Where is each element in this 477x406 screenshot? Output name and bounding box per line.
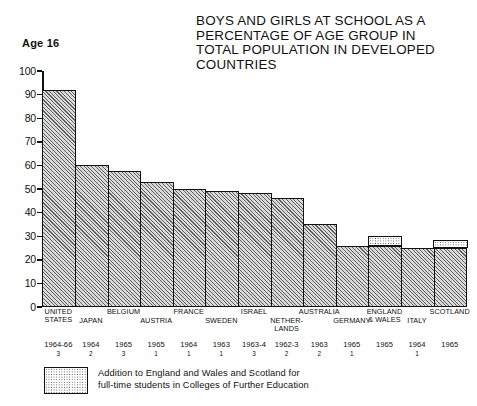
year-footnote: 1 [327,350,376,357]
year-value: 1965 [115,340,132,349]
year-value: 1964 [409,340,426,349]
category-label-italy: ITALY [389,317,444,325]
year-value: 1963 [213,340,230,349]
y-tick-100 [37,70,42,71]
legend-line-2: full-time students in Colleges of Furthe… [98,380,309,392]
bar-austria[interactable] [140,182,174,307]
year-value: 1965 [148,340,165,349]
chart-title-line-3: TOTAL POPULATION IN DEVELOPED [196,43,464,58]
y-tick-label-80: 80 [10,113,36,124]
category-label-austria: AUSTRIA [128,317,183,325]
category-label-line: SWEDEN [194,317,249,325]
year-value: 1963 [311,340,328,349]
bar-israel[interactable] [238,193,272,307]
bar-france[interactable] [172,189,206,307]
category-label-line: ITALY [389,317,444,325]
chart-title-line-2: PERCENTAGE OF AGE GROUP IN [196,29,464,44]
category-label-line: LANDS [259,325,314,333]
bar-addition-england-wales [368,236,403,246]
legend: Addition to England and Wales and Scotla… [44,367,309,394]
y-tick-label-50: 50 [10,184,36,195]
year-label-scotland: 1965 [425,341,474,350]
y-tick-label-20: 20 [10,254,36,265]
year-value: 1965 [343,340,360,349]
category-label-line: JAPAN [63,317,118,325]
category-label-line: SCOTLAND [422,308,477,316]
category-label-japan: JAPAN [63,317,118,325]
dotted-pattern-swatch-icon [44,367,88,394]
bar-belgium[interactable] [107,171,141,307]
bar-england-wales[interactable] [368,246,402,307]
category-label-scotland: SCOTLAND [422,308,477,316]
x-axis-category-labels: UNITEDSTATESJAPANBELGIUMAUSTRIAFRANCESWE… [42,308,466,334]
category-label-nether-lands: NETHER-LANDS [259,317,314,334]
legend-line-1: Addition to England and Wales and Scotla… [98,368,309,380]
year-value: 1964 [82,340,99,349]
bar-japan[interactable] [75,165,109,307]
y-axis-tick-labels: 0102030405060708090100 [8,71,36,307]
bar-scotland[interactable] [433,248,467,307]
legend-text: Addition to England and Wales and Scotla… [98,367,309,391]
y-tick-label-70: 70 [10,136,36,147]
bar-united-states[interactable] [42,90,76,307]
year-footnote: 1 [393,350,442,357]
year-value: 1964 [180,340,197,349]
chart-title-line-1: BOYS AND GIRLS AT SCHOOL AS A [196,14,464,29]
y-tick-label-30: 30 [10,231,36,242]
bar-sweden[interactable] [205,191,239,307]
y-tick-label-90: 90 [10,89,36,100]
y-tick-label-40: 40 [10,207,36,218]
y-tick-label-100: 100 [10,66,36,77]
year-value: 1965 [441,340,458,349]
bar-italy[interactable] [401,248,435,307]
bar-australia[interactable] [303,224,337,307]
category-label-sweden: SWEDEN [194,317,249,325]
y-tick-label-60: 60 [10,160,36,171]
bar-germany[interactable] [336,246,370,307]
category-label-line: AUSTRIA [128,317,183,325]
y-tick-label-10: 10 [10,278,36,289]
age-group-label: Age 16 [22,37,59,49]
chart-title: BOYS AND GIRLS AT SCHOOL AS A PERCENTAGE… [196,14,464,72]
bar-nether-lands[interactable] [270,198,304,307]
bar-addition-scotland [433,240,468,248]
x-axis-year-labels: 1964-66319642196531965119641196311963-43… [42,341,466,361]
plot-area [42,71,466,307]
year-value: 1965 [376,340,393,349]
